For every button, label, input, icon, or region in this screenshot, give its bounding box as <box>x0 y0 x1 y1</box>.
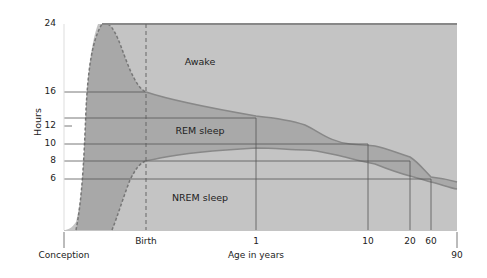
region-label-nrem: NREM sleep <box>172 192 228 203</box>
y-tick-label-8: 8 <box>36 155 56 165</box>
x-axis-label: Age in years <box>228 250 284 260</box>
sleep-chart: 24 16 12 10 8 6 Hours Awake REM sleep NR… <box>0 0 487 278</box>
region-label-awake: Awake <box>185 56 216 67</box>
y-tick-label-10: 10 <box>36 138 56 148</box>
y-tick-label-6: 6 <box>36 173 56 183</box>
region-label-rem: REM sleep <box>175 125 224 136</box>
x-tick-label-1: 1 <box>253 236 259 246</box>
x-tick-label-20: 20 <box>404 236 415 246</box>
x-tick-label-90: 90 <box>451 250 462 260</box>
y-tick-label-16: 16 <box>36 86 56 96</box>
x-tick-label-birth: Birth <box>135 236 157 246</box>
y-axis-label: Hours <box>32 108 43 136</box>
x-tick-label-60: 60 <box>425 236 436 246</box>
y-tick-label-24: 24 <box>36 18 56 28</box>
x-tick-label-10: 10 <box>362 236 373 246</box>
x-tick-label-conception: Conception <box>39 250 90 260</box>
